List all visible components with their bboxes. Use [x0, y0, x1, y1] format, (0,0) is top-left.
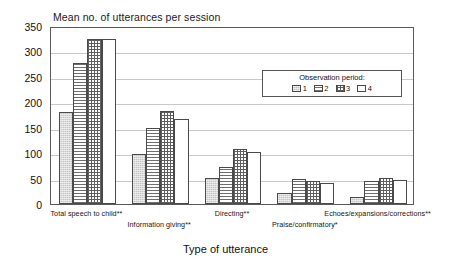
- x-tick-label: Directing**: [215, 209, 250, 218]
- y-axis: 350300250200150100500: [0, 27, 46, 205]
- y-tick-label: 100: [24, 148, 42, 160]
- legend-item: 3: [336, 85, 351, 93]
- bar: [379, 178, 393, 204]
- bar: [393, 180, 407, 204]
- legend-label: 1: [303, 85, 307, 93]
- bar: [320, 183, 334, 204]
- y-tick-label: 250: [24, 72, 42, 84]
- x-axis-title: Type of utterance: [0, 243, 451, 255]
- legend-item: 1: [292, 85, 307, 93]
- legend-item: 4: [357, 85, 372, 93]
- y-tick-label: 150: [24, 123, 42, 135]
- bar: [233, 149, 247, 204]
- bar-chart: Mean no. of utterances per session 35030…: [0, 0, 451, 266]
- x-tick-label: Total speech to child**: [50, 209, 122, 218]
- bar: [350, 197, 364, 204]
- x-tick-label: Echoes/expansions/corrections**: [324, 209, 431, 218]
- bars-layer: [51, 28, 413, 204]
- legend-swatch: [336, 85, 345, 92]
- bar: [364, 181, 378, 204]
- legend-label: 4: [368, 85, 372, 93]
- bar: [102, 39, 116, 204]
- bar: [59, 112, 73, 204]
- bar: [132, 154, 146, 204]
- legend: Observation period: 1234: [262, 70, 402, 97]
- y-tick-label: 50: [30, 174, 42, 186]
- bar: [87, 39, 101, 204]
- x-tick-label: Praise/confirmatory*: [272, 220, 338, 229]
- bar-group: [132, 28, 189, 204]
- bar: [205, 178, 219, 204]
- bar: [146, 128, 160, 204]
- plot-area: [50, 27, 414, 205]
- legend-swatch: [314, 85, 323, 92]
- bar: [292, 179, 306, 204]
- bar: [174, 119, 188, 204]
- y-tick-label: 300: [24, 46, 42, 58]
- bar: [247, 152, 261, 204]
- y-tick-label: 200: [24, 97, 42, 109]
- x-tick-label: Information giving**: [128, 220, 191, 229]
- legend-swatch: [292, 85, 301, 92]
- bar: [306, 181, 320, 204]
- legend-title: Observation period:: [265, 74, 399, 83]
- y-tick-label: 350: [24, 21, 42, 33]
- legend-swatch: [357, 85, 366, 92]
- bar: [160, 111, 174, 204]
- bar-group: [205, 28, 262, 204]
- legend-items: 1234: [265, 85, 399, 93]
- chart-title: Mean no. of utterances per session: [53, 11, 220, 23]
- bar: [73, 63, 87, 204]
- bar-group: [277, 28, 334, 204]
- bar-group: [350, 28, 407, 204]
- bar: [219, 167, 233, 204]
- bar-group: [59, 28, 116, 204]
- x-axis-category-labels: Total speech to child**Information givin…: [0, 206, 451, 240]
- legend-label: 2: [324, 85, 328, 93]
- legend-label: 3: [346, 85, 350, 93]
- bar: [277, 193, 291, 204]
- legend-item: 2: [314, 85, 329, 93]
